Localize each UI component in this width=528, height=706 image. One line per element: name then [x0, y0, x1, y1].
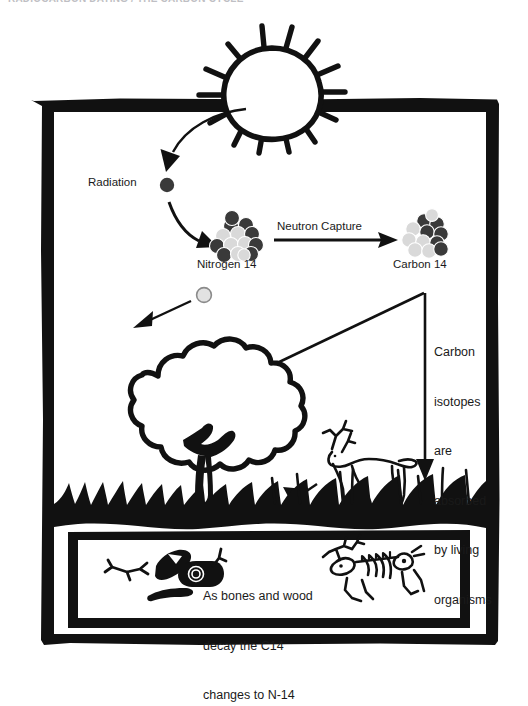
nitrogen-14-label: Nitrogen 14 — [197, 258, 256, 272]
carbon-14-nucleus — [402, 209, 449, 259]
sun — [199, 26, 345, 153]
nitrogen-14-nucleus — [210, 211, 264, 263]
neutron-fall-arrow — [133, 301, 191, 328]
decay-note-line: decay the C14 — [203, 638, 348, 655]
neutron-particle — [197, 288, 212, 303]
radiation-particle — [160, 178, 174, 192]
absorption-note-line: absorbed — [434, 493, 508, 510]
absorption-note-line: are — [434, 443, 508, 460]
decay-note-line: changes to N-14 — [203, 687, 348, 704]
absorption-note-line: Carbon — [434, 344, 508, 361]
absorption-note-line: isotopes — [434, 394, 508, 411]
page-top-caption: RADIOCARBON DATING / THE CARBON CYCLE — [8, 0, 244, 5]
absorption-note-line: organisms — [434, 592, 508, 609]
neutron-capture-arrow — [274, 232, 398, 248]
decay-note: As bones and wood decay the C14 changes … — [203, 555, 348, 706]
absorption-note-line: by living — [434, 542, 508, 559]
carbon-14-label: Carbon 14 — [393, 258, 447, 272]
radiation-label: Radiation — [88, 176, 137, 190]
grass-ground — [54, 468, 486, 529]
neutron-capture-label: Neutron Capture — [277, 220, 362, 234]
tree — [131, 339, 305, 506]
decay-note-line: As bones and wood — [203, 588, 348, 605]
absorption-note: Carbon isotopes are absorbed by living o… — [434, 311, 508, 641]
